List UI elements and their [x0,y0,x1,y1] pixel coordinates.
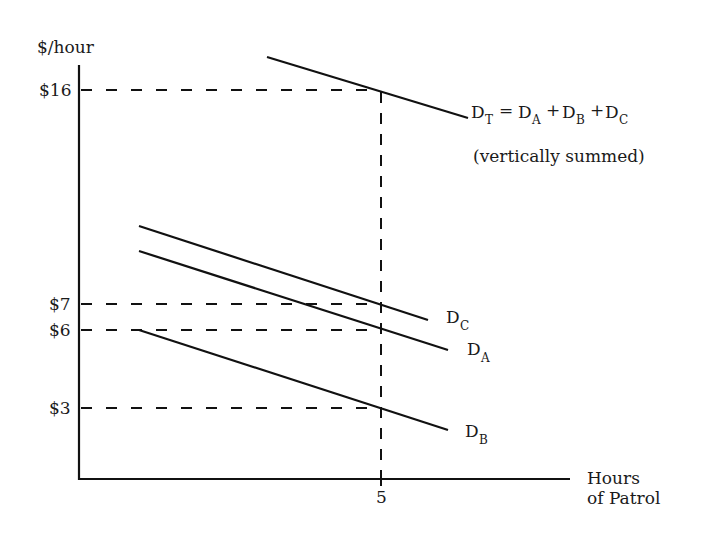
dt-eq-dc-d: D [605,102,619,122]
curve-dc [139,226,428,320]
curve-da [139,251,448,350]
label-dc-d: D [446,307,460,327]
label-db-sub: B [479,433,488,447]
label-da-sub: A [480,351,490,365]
dt-eq-dc-sub: C [619,113,628,127]
label-dc-sub: C [460,319,469,333]
y-tick-16: $16 [39,80,71,100]
curve-dt [267,57,468,118]
dt-equation: D T = D A + D B + D C [471,100,628,127]
x-axis-title-line2: of Patrol [587,488,660,508]
curve-db [139,330,448,430]
dt-eq-d: D [471,102,485,122]
x-tick-5: 5 [376,487,387,507]
label-da: D A [467,339,490,365]
y-axis-title: $/hour [37,37,95,57]
dt-eq-equals: = [499,100,513,120]
dt-eq-db-sub: B [576,113,585,127]
y-tick-7: $7 [49,294,71,314]
label-da-d: D [467,339,481,359]
dt-eq-da-d: D [518,102,532,122]
x-axis-title-line1: Hours [587,468,640,488]
dt-eq-db-d: D [562,102,576,122]
y-tick-6: $6 [49,320,71,340]
demand-chart: $/hour $16 $7 $6 $3 5 Hours of Patrol D … [0,0,716,547]
label-db-d: D [465,421,479,441]
demand-curves [139,57,468,430]
label-dc: D C [446,307,469,333]
dt-eq-sub: T [485,113,493,127]
dt-eq-plus1: + [546,100,560,120]
y-tick-3: $3 [49,398,71,418]
dt-eq-da-sub: A [531,113,541,127]
label-db: D B [465,421,488,447]
dt-eq-plus2: + [590,100,604,120]
reference-lines [81,90,381,479]
vertically-summed-note: (vertically summed) [473,146,645,166]
